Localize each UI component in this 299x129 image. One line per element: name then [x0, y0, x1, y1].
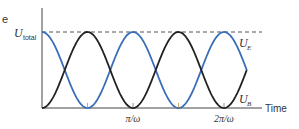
x-axis-label: Time — [265, 103, 287, 114]
legend-ue: U E — [239, 36, 252, 52]
legend-ub: U B — [239, 92, 252, 108]
svg-text:E: E — [246, 44, 252, 52]
x-tick-label-2: 2π/ω — [214, 113, 234, 124]
svg-text:B: B — [247, 100, 252, 108]
panel-label: e — [2, 13, 8, 25]
svg-text:total: total — [23, 34, 37, 41]
x-tick-label-1: π/ω — [126, 113, 141, 124]
u-total-label: U total — [14, 26, 37, 41]
energy-oscillation-chart: e U total π/ω 2π/ω Time U E U B — [0, 0, 299, 129]
